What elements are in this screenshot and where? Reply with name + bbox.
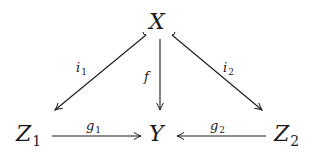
node-z2-label: Z (274, 121, 289, 146)
arrow-label-g1-subscript: 1 (95, 125, 101, 135)
arrow-label-g1-base: g (86, 118, 94, 133)
node-y-label: Y (149, 121, 164, 146)
arrow-label-i2-subscript: 2 (228, 67, 234, 77)
arrow-label-g2-base: g (210, 118, 218, 133)
node-z1-label: Z (16, 121, 31, 146)
hook-tail-icon (143, 32, 146, 35)
node-z2: Z2 (274, 123, 299, 147)
node-x-label: X (149, 9, 165, 34)
node-z2-subscript: 2 (290, 133, 299, 149)
arrow-label-g1: g1 (86, 119, 101, 134)
arrow-label-i2: i2 (223, 61, 234, 76)
node-z1: Z1 (16, 123, 41, 147)
arrow-label-i1-base: i (76, 60, 80, 75)
arrow-label-g2-subscript: 2 (219, 125, 225, 135)
arrow-label-f: f (144, 70, 149, 83)
arrow-label-f-base: f (144, 69, 149, 84)
arrow-label-i1-subscript: 1 (81, 67, 87, 77)
hook-tail-icon (172, 32, 175, 35)
commutative-diagram: X Y Z1 Z2 i1 f i2 g1 g2 (0, 0, 318, 158)
node-z1-subscript: 1 (32, 133, 41, 149)
node-x: X (149, 11, 165, 33)
arrow-i1 (55, 32, 146, 110)
node-y: Y (149, 123, 164, 145)
arrow-label-i1: i1 (76, 61, 87, 76)
arrow-i2 (172, 32, 262, 110)
arrow-label-i2-base: i (223, 60, 227, 75)
arrow-label-g2: g2 (210, 119, 225, 134)
